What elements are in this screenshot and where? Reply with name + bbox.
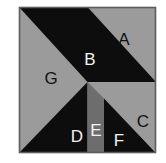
piece-label-B: B: [84, 50, 95, 69]
piece-label-D: D: [71, 127, 83, 146]
piece-label-G: G: [44, 69, 57, 88]
tangram-svg: A B C D E F G: [0, 0, 166, 163]
piece-label-F: F: [114, 131, 124, 150]
tangram-diagram: A B C D E F G: [0, 0, 166, 163]
piece-label-C: C: [137, 112, 149, 131]
piece-label-A: A: [118, 30, 130, 49]
piece-label-E: E: [90, 121, 101, 140]
